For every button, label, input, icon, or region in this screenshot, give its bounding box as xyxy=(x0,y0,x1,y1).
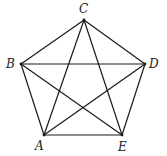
vertex-b xyxy=(20,63,23,66)
edge-b-c xyxy=(21,20,84,64)
edge-d-e xyxy=(122,64,145,135)
edges xyxy=(21,20,145,135)
vertex-label-b: B xyxy=(5,57,15,71)
pentagon-diagram: ABCDE xyxy=(0,0,167,156)
edge-c-e xyxy=(84,20,122,135)
vertex-c xyxy=(83,19,86,22)
edge-b-e xyxy=(21,64,122,135)
vertex-label-a: A xyxy=(34,139,44,153)
edge-a-d xyxy=(44,64,145,135)
vertex-d xyxy=(144,63,147,66)
vertex-a xyxy=(43,134,46,137)
vertex-label-e: E xyxy=(117,140,127,154)
edge-a-c xyxy=(44,20,84,135)
edge-a-b xyxy=(21,64,44,135)
vertex-label-d: D xyxy=(148,57,159,71)
vertex-label-c: C xyxy=(79,2,88,16)
vertex-e xyxy=(121,134,124,137)
edge-c-d xyxy=(84,20,145,64)
